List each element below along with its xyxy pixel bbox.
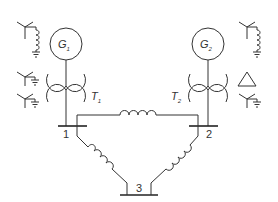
generator-g2-label: G2: [200, 38, 213, 52]
bus-2-label: 2: [206, 128, 212, 140]
g1-wye-reactor-ground-icon: [17, 22, 40, 57]
bus-2: 2: [189, 126, 218, 140]
line-1-2-inductor-icon: [120, 111, 156, 116]
line-1-2: [77, 111, 198, 127]
generator-g2: G2: [192, 28, 224, 86]
bus-3-label: 3: [136, 182, 142, 194]
line-1-3: [77, 126, 127, 195]
line-1-3-inductor-icon: [88, 144, 113, 169]
bus-1-label: 1: [63, 128, 69, 140]
transformer-t1-label: T1: [91, 90, 101, 104]
t2-primary-delta-icon: [238, 72, 256, 86]
transformer-t2-label: T2: [171, 90, 182, 104]
transformer-t1: T1: [47, 74, 102, 126]
transformer-t2: T2: [171, 74, 227, 126]
t2-secondary-wye-ground-icon: [239, 94, 261, 108]
one-line-diagram: G1 T1: [0, 0, 278, 202]
g2-wye-reactor-ground-icon: [239, 22, 261, 57]
bus-1: 1: [58, 126, 87, 140]
generator-g1: G1: [50, 28, 82, 86]
line-2-3-inductor-icon: [166, 145, 191, 170]
bus-3: 3: [120, 182, 158, 195]
t1-secondary-wye-ground-icon: [17, 94, 39, 108]
generator-g1-label: G1: [58, 38, 70, 52]
t1-primary-wye-ground-icon: [17, 72, 39, 86]
line-2-3: [151, 126, 198, 195]
